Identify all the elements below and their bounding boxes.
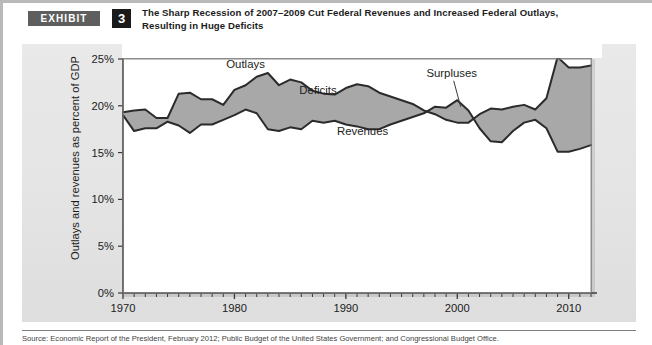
x-tick-label: 1980 — [222, 302, 247, 314]
y-tick-label: 10% — [92, 193, 114, 205]
chart-panel: Outlays and revenues as percent of GDP 0… — [22, 44, 636, 322]
page-left-rule — [0, 0, 3, 345]
y-tick-label: 20% — [92, 100, 114, 112]
annotation-revenues: Revenues — [337, 125, 389, 137]
area-fill-group — [123, 57, 591, 152]
x-tick-label: 1990 — [333, 302, 358, 314]
y-tick-label: 25% — [92, 53, 114, 65]
plot-clip-top — [122, 44, 602, 58]
x-tick-label: 1970 — [111, 302, 136, 314]
x-tick-label: 2010 — [556, 302, 581, 314]
annotation-surpluses: Surpluses — [426, 67, 477, 79]
annotation-outlays: Outlays — [226, 58, 265, 70]
exhibit-tag: EXHIBIT — [28, 11, 100, 26]
exhibit-page: EXHIBIT 3 The Sharp Recession of 2007–20… — [0, 0, 652, 345]
deficit-surplus-band — [123, 57, 591, 152]
x-tick-label: 2000 — [445, 302, 470, 314]
annotation-deficits: Deficits — [299, 84, 337, 96]
exhibit-title-line-2: Resulting in Huge Deficits — [142, 20, 642, 33]
exhibit-header: EXHIBIT 3 The Sharp Recession of 2007–20… — [6, 6, 646, 42]
annotations-group: OutlaysDeficitsRevenuesSurpluses — [122, 44, 602, 293]
exhibit-number-badge: 3 — [112, 9, 131, 28]
source-note: Source: Economic Report of the President… — [22, 334, 636, 345]
page-top-rule — [0, 0, 652, 3]
exhibit-title: The Sharp Recession of 2007–2009 Cut Fed… — [142, 7, 642, 32]
source-rule — [22, 330, 636, 331]
chart-svg: 0%5%10%15%20%25%19701980199020002010 Out… — [22, 44, 636, 322]
y-tick-label: 0% — [98, 287, 114, 299]
y-tick-label: 5% — [98, 240, 114, 252]
exhibit-title-line-1: The Sharp Recession of 2007–2009 Cut Fed… — [142, 7, 642, 20]
y-tick-label: 15% — [92, 147, 114, 159]
